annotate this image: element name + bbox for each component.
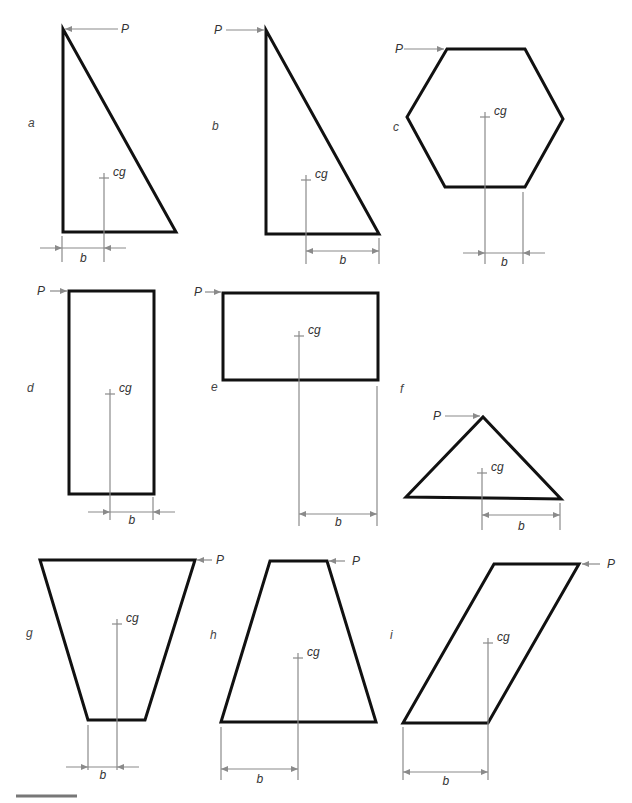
arrowhead-icon bbox=[478, 250, 485, 256]
arm-label: b bbox=[443, 774, 450, 788]
arrowhead-icon bbox=[214, 289, 221, 295]
cg-label: cg bbox=[497, 630, 510, 644]
arrowhead-icon bbox=[291, 766, 298, 772]
panel-label: g bbox=[26, 626, 33, 640]
panel-i: Pcgbi bbox=[390, 557, 615, 788]
arrowhead-icon bbox=[403, 769, 410, 775]
arrowhead-icon bbox=[473, 413, 480, 419]
arm-label: b bbox=[80, 251, 87, 265]
cg-label: cg bbox=[308, 323, 321, 337]
arrowhead-icon bbox=[370, 511, 377, 517]
arrowhead-icon bbox=[221, 766, 228, 772]
panel-e: Pcgbe bbox=[194, 285, 378, 529]
panel-f: Pcgbf bbox=[400, 382, 561, 533]
arrowhead-icon bbox=[60, 288, 67, 294]
cg-label: cg bbox=[315, 167, 328, 181]
force-label: P bbox=[433, 409, 441, 423]
arrowhead-icon bbox=[306, 248, 313, 254]
cg-label: cg bbox=[113, 165, 126, 179]
arrowhead-icon bbox=[55, 245, 62, 251]
force-label: P bbox=[214, 23, 222, 37]
arrowhead-icon bbox=[582, 561, 589, 567]
cg-label: cg bbox=[119, 381, 132, 395]
panel-label: e bbox=[211, 380, 218, 394]
arrowhead-icon bbox=[437, 46, 444, 52]
panel-label: d bbox=[27, 381, 34, 395]
panel-a: Pcgba bbox=[28, 22, 176, 265]
panel-g: Pcgbg bbox=[26, 553, 224, 782]
arrowhead-icon bbox=[481, 769, 488, 775]
arrowhead-icon bbox=[104, 245, 111, 251]
panel-label: c bbox=[393, 120, 399, 134]
arrowhead-icon bbox=[299, 511, 306, 517]
arm-label: b bbox=[501, 255, 508, 269]
arrowhead-icon bbox=[117, 764, 124, 770]
panel-c: Pcgbc bbox=[393, 42, 563, 269]
panel-label: a bbox=[28, 116, 35, 130]
arrowhead-icon bbox=[257, 27, 264, 33]
cg-label: cg bbox=[126, 611, 139, 625]
panel-label: h bbox=[210, 628, 217, 642]
arm-label: b bbox=[518, 519, 525, 533]
force-label: P bbox=[37, 284, 45, 298]
arm-label: b bbox=[257, 772, 264, 786]
arrowhead-icon bbox=[197, 557, 204, 563]
panel-h: Pcgbh bbox=[210, 554, 376, 786]
force-label: P bbox=[352, 554, 360, 568]
figure-canvas: PcgbaPcgbbPcgbcPcgbdPcgbePcgbfPcgbgPcgbh… bbox=[0, 0, 632, 803]
cg-label: cg bbox=[491, 460, 504, 474]
arrowhead-icon bbox=[553, 512, 560, 518]
force-label: P bbox=[395, 42, 403, 56]
arrowhead-icon bbox=[329, 558, 336, 564]
arrowhead-icon bbox=[103, 509, 110, 515]
cg-label: cg bbox=[307, 645, 320, 659]
force-label: P bbox=[121, 22, 129, 36]
panel-label: i bbox=[390, 628, 393, 642]
cg-label: cg bbox=[494, 104, 507, 118]
shape-outline bbox=[406, 417, 561, 499]
panel-label: b bbox=[212, 119, 219, 133]
panel-d: Pcgbd bbox=[27, 284, 175, 527]
arrowhead-icon bbox=[523, 250, 530, 256]
arrowhead-icon bbox=[153, 509, 160, 515]
arm-label: b bbox=[100, 768, 107, 782]
shape-outline bbox=[63, 29, 176, 232]
arm-label: b bbox=[129, 513, 136, 527]
panel-b: Pcgbb bbox=[212, 23, 379, 267]
arrowhead-icon bbox=[81, 764, 88, 770]
arrowhead-icon bbox=[65, 26, 72, 32]
force-label: P bbox=[216, 553, 224, 567]
force-label: P bbox=[194, 285, 202, 299]
shape-outline bbox=[69, 291, 154, 494]
shape-outline bbox=[266, 30, 379, 234]
arrowhead-icon bbox=[482, 512, 489, 518]
arm-label: b bbox=[340, 253, 347, 267]
arm-label: b bbox=[335, 515, 342, 529]
panel-label: f bbox=[400, 382, 405, 396]
arrowhead-icon bbox=[372, 248, 379, 254]
force-label: P bbox=[607, 557, 615, 571]
